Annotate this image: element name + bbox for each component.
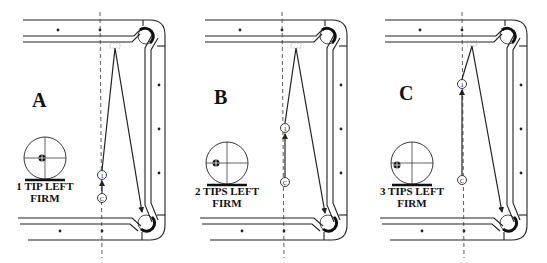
aim-reference-line bbox=[282, 12, 284, 258]
cue-ball-label: C bbox=[460, 177, 464, 184]
object-ball-label: 1 bbox=[460, 81, 463, 88]
bottom-corner-pocket-icon bbox=[323, 217, 337, 231]
aim-reference-line bbox=[100, 12, 102, 258]
shot-panel-a: 1C A 1 TIP LEFT FIRM bbox=[0, 0, 185, 263]
shot-path: 1C bbox=[98, 43, 143, 212]
bottom-corner-pocket-icon bbox=[503, 217, 517, 231]
object-ball: 1 bbox=[458, 80, 467, 89]
object-ball-bank-path bbox=[462, 46, 502, 212]
table-diagram: 1C bbox=[182, 0, 367, 263]
cue-ball-label: C bbox=[100, 195, 104, 202]
shot-path: 1C bbox=[458, 41, 503, 212]
pockets bbox=[502, 28, 517, 231]
table-rails bbox=[18, 20, 165, 240]
object-ball-bank-path bbox=[102, 48, 142, 212]
ghost-ball-contact bbox=[110, 43, 120, 48]
english-caption-line1: 3 TIPS LEFT bbox=[372, 185, 452, 197]
object-ball-bank-path bbox=[285, 48, 325, 213]
table-diagram: 1C bbox=[0, 0, 185, 263]
shot-panel-c: 1C C 3 TIPS LEFT FIRM bbox=[362, 0, 547, 263]
panel-letter: A bbox=[32, 89, 46, 112]
table-diagram: 1C bbox=[362, 0, 547, 263]
english-caption: 1 TIP LEFT FIRM bbox=[5, 180, 85, 204]
shot-panel-b: 1C B 2 TIPS LEFT FIRM bbox=[182, 0, 367, 263]
object-ball: 1 bbox=[281, 124, 290, 133]
english-caption-line1: 2 TIPS LEFT bbox=[187, 185, 267, 197]
cue-tip-position-diagram bbox=[206, 142, 248, 185]
pockets bbox=[322, 28, 337, 231]
english-caption-line2: FIRM bbox=[5, 192, 85, 204]
ghost-ball-contact bbox=[291, 43, 301, 48]
cue-ball: C bbox=[458, 176, 467, 185]
cue-tip-position-diagram bbox=[24, 137, 66, 180]
object-ball-label: 1 bbox=[100, 172, 103, 179]
object-ball: 1 bbox=[98, 171, 107, 180]
bottom-corner-pocket-icon bbox=[141, 217, 155, 231]
english-caption-line2: FIRM bbox=[187, 197, 267, 209]
pockets bbox=[140, 28, 155, 231]
object-ball-label: 1 bbox=[283, 125, 286, 132]
cue-tip-position-diagram bbox=[391, 142, 433, 185]
panel-letter: C bbox=[399, 82, 413, 105]
english-caption: 2 TIPS LEFT FIRM bbox=[187, 185, 267, 209]
english-caption: 3 TIPS LEFT FIRM bbox=[372, 185, 452, 209]
shot-path: 1C bbox=[281, 43, 326, 213]
english-caption-line1: 1 TIP LEFT bbox=[5, 180, 85, 192]
panel-letter: B bbox=[214, 86, 227, 109]
cue-ball: C bbox=[98, 194, 107, 203]
english-caption-line2: FIRM bbox=[372, 197, 452, 209]
outer-rail-line bbox=[23, 20, 165, 240]
cue-ball-label: C bbox=[283, 179, 287, 186]
cue-ball: C bbox=[281, 178, 290, 187]
